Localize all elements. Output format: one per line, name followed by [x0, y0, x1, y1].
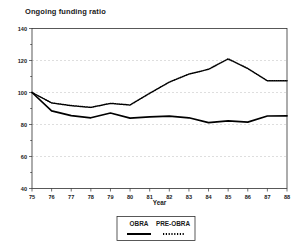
x-axis-tick-label: 80 — [127, 194, 133, 200]
legend-label-pre-obra: PRE-OBRA — [156, 220, 190, 227]
y-axis-tick-label: 120 — [18, 58, 27, 64]
y-axis-tick-label: 100 — [18, 90, 27, 96]
legend-label-obra: OBRA — [130, 220, 149, 227]
y-axis-tick-labels-group: 406080100120140 — [18, 26, 27, 192]
x-axis-tick-label: 88 — [284, 194, 290, 200]
chart-figure: Ongoing funding ratio 406080100120140 75… — [0, 0, 301, 251]
chart-legend: OBRA PRE-OBRA — [117, 217, 195, 241]
x-axis-tick-label: 76 — [48, 194, 54, 200]
y-axis-tick-label: 60 — [21, 154, 27, 160]
y-axis-ticks-group — [29, 29, 32, 189]
plot-frame — [32, 29, 287, 189]
series-line-obra — [32, 93, 287, 123]
x-axis-tick-label: 82 — [166, 194, 172, 200]
gridlines-group — [32, 61, 287, 157]
series-line-pre-obra — [32, 59, 287, 107]
x-axis-tick-label: 78 — [88, 194, 94, 200]
x-axis-tick-label: 79 — [107, 194, 113, 200]
x-axis-tick-label: 83 — [186, 194, 192, 200]
y-axis-tick-label: 80 — [21, 122, 27, 128]
x-axis-tick-label: 75 — [29, 194, 35, 200]
x-axis-tick-label: 77 — [68, 194, 74, 200]
y-axis-tick-label: 40 — [21, 186, 27, 192]
x-axis-tick-label: 85 — [225, 194, 231, 200]
line-chart: 406080100120140 757677787980818283848586… — [0, 0, 301, 251]
y-axis-tick-label: 140 — [18, 26, 27, 32]
x-axis-tick-label: 87 — [264, 194, 270, 200]
x-axis-tick-label: 86 — [245, 194, 251, 200]
x-axis-ticks-group — [32, 189, 287, 192]
x-axis-title: Year — [153, 199, 167, 206]
x-axis-tick-label: 84 — [205, 194, 212, 200]
